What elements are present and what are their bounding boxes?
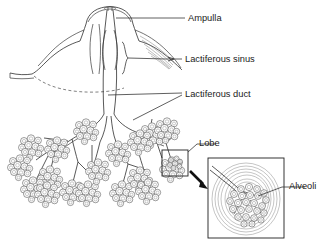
label-lactiferous-duct: Lactiferous duct	[185, 89, 251, 99]
label-lobe: Lobe	[199, 138, 220, 148]
label-lactiferous-sinus: Lactiferous sinus	[185, 54, 255, 64]
breast-anatomy-diagram: Ampulla Lactiferous sinus Lactiferous du…	[0, 0, 328, 241]
label-ampulla: Ampulla	[188, 13, 222, 23]
duct-system-group	[82, 10, 136, 142]
lobule-tree-group	[8, 118, 185, 208]
nipple-areola-group	[10, 7, 182, 93]
label-alveoli: Alveoli	[289, 181, 316, 191]
diagram-canvas: Ampulla Lactiferous sinus Lactiferous du…	[0, 0, 328, 241]
alveoli-cluster	[227, 183, 270, 227]
magnified-lobe-inset	[208, 158, 284, 238]
magnification-arrow	[190, 171, 208, 189]
